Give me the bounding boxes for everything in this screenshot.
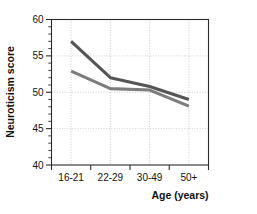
y-tick-label: 60: [32, 14, 44, 25]
chart-figure: 4045505560 16-2122-2930-4950+ Age (years…: [0, 0, 257, 214]
x-tick-label: 22-29: [98, 172, 124, 183]
x-tick-label: 30-49: [137, 172, 163, 183]
x-tick-label: 50+: [180, 172, 197, 183]
y-tick-label: 45: [32, 123, 44, 134]
y-tick-label: 50: [32, 87, 44, 98]
x-tick-label: 16-21: [58, 172, 84, 183]
y-tick-label: 55: [32, 50, 44, 61]
y-axis-title: Neuroticism score: [4, 46, 16, 138]
chart-background: [0, 0, 257, 214]
x-axis-title: Age (years): [151, 189, 208, 201]
y-tick-label: 40: [32, 160, 44, 171]
neuroticism-by-age-line-chart: 4045505560 16-2122-2930-4950+ Age (years…: [0, 0, 257, 214]
